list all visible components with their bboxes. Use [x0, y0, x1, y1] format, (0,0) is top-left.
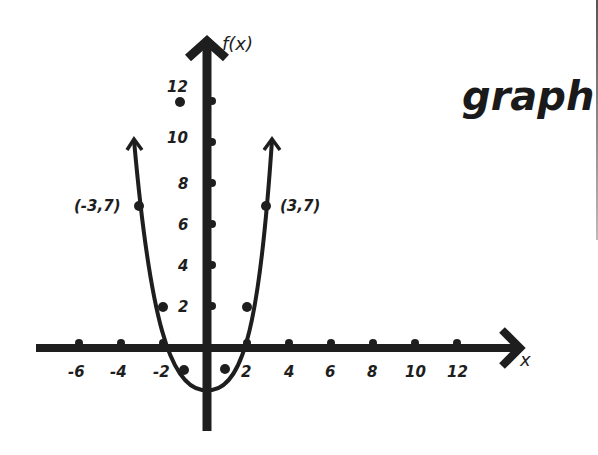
- y-axis-label: f(x): [222, 33, 253, 54]
- point-neg1-neg1: [179, 365, 189, 375]
- x-tick-labels: -6 -4 -2 2 4 6 8 10 12: [68, 363, 468, 381]
- annotation-point-right: (3,7): [280, 197, 320, 215]
- x-tick-label: 10: [405, 363, 426, 381]
- x-tick-label: -6: [68, 363, 85, 381]
- y-tick-label: 12: [167, 78, 188, 96]
- x-axis-label: x: [519, 349, 531, 370]
- point-neg2-2: [158, 302, 168, 312]
- chart-title: graph: [462, 73, 594, 119]
- y-tick-label: 2: [178, 298, 188, 316]
- y-tick-label: 8: [178, 175, 188, 193]
- x-tick-label: -2: [153, 363, 170, 381]
- x-tick-label: 4: [283, 363, 294, 381]
- function-graph: graph x -6 -4 -2 2 4 6 8 10 12: [0, 0, 598, 455]
- x-axis: x -6 -4 -2 2 4 6 8 10 12: [36, 330, 531, 381]
- point-2-2: [242, 302, 252, 312]
- annotation-point-left: (-3,7): [74, 197, 121, 215]
- x-tick-label: 12: [447, 363, 468, 381]
- y-tick-label: 6: [178, 216, 188, 234]
- stray-point: [175, 97, 185, 107]
- x-tick-label: -4: [110, 363, 127, 381]
- x-tick-label: 6: [325, 363, 335, 381]
- y-tick-labels: 2 4 6 8 10 12: [167, 78, 188, 316]
- point-3-7: [261, 201, 271, 211]
- point-1-neg1: [220, 364, 230, 374]
- y-tick-label: 4: [177, 257, 188, 275]
- y-tick-label: 10: [167, 129, 188, 147]
- x-tick-label: 2: [241, 363, 251, 381]
- x-tick-label: 8: [367, 363, 377, 381]
- point-neg3-7: [134, 201, 144, 211]
